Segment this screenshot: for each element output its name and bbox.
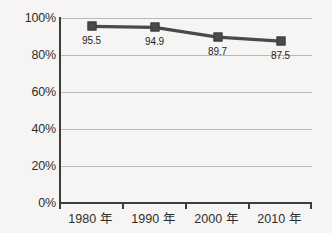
data-point-marker-0[interactable] <box>87 22 96 31</box>
line-chart: 100% 80% 60% 40% 20% 0% 95.5 94.9 89.7 8… <box>0 0 332 233</box>
data-point-label-1: 94.9 <box>145 36 164 47</box>
data-point-label-0: 95.5 <box>82 35 101 46</box>
x-tick-label-1990: 1990 年 <box>131 208 175 227</box>
data-point-label-3: 87.5 <box>271 50 290 61</box>
data-point-marker-3[interactable] <box>276 37 285 46</box>
x-tick-label-2010: 2010 年 <box>257 208 301 227</box>
data-point-marker-2[interactable] <box>213 33 222 42</box>
data-point-marker-1[interactable] <box>150 23 159 32</box>
x-tick-label-2000: 2000 年 <box>194 208 238 227</box>
series-line <box>0 0 332 233</box>
data-point-label-2: 89.7 <box>208 46 227 57</box>
x-tick-label-1980: 1980 年 <box>68 208 112 227</box>
